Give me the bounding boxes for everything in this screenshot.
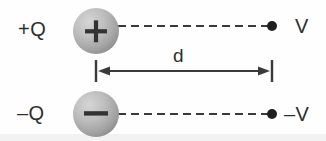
separation-distance-label: d — [173, 46, 184, 65]
minus-sign-icon — [84, 111, 108, 115]
negative-terminal-dot — [267, 109, 277, 119]
positive-charge-label: +Q — [18, 19, 46, 39]
dimension-arrowhead-left — [98, 67, 110, 76]
negative-charge-label: –Q — [17, 103, 45, 123]
positive-potential-label: V — [295, 16, 309, 36]
diagram-canvas — [0, 0, 326, 141]
negative-potential-label: –V — [284, 104, 309, 124]
positive-terminal-dot — [267, 21, 277, 31]
dipole-diagram-figure: +Q –Q V –V d — [0, 0, 326, 141]
dimension-arrowhead-right — [258, 67, 270, 76]
separation-dimension — [96, 60, 272, 82]
